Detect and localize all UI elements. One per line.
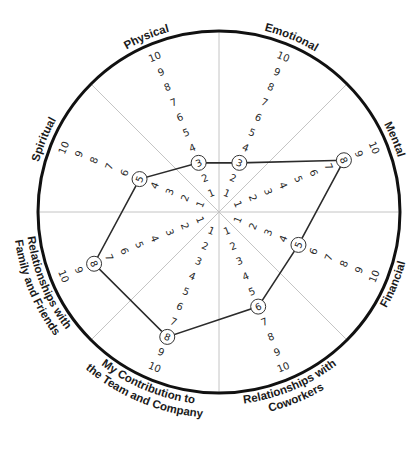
scale-number: 9: [272, 66, 282, 79]
scale-number: 7: [259, 96, 269, 109]
scale-number: 9: [353, 149, 366, 159]
scale-number: 1: [232, 199, 245, 209]
scale-number: 3: [164, 187, 177, 197]
scale-number: 7: [322, 252, 335, 262]
scale-number: 7: [168, 315, 178, 328]
spoke-line: [219, 84, 347, 212]
scale-number: 2: [179, 221, 192, 231]
scale-number: 9: [353, 265, 366, 275]
scale-number: 3: [164, 227, 177, 237]
scale-number: 2: [228, 240, 238, 253]
scale-number: 3: [234, 255, 244, 268]
scale-number: 3: [262, 227, 275, 237]
balance-wheel-chart: 1245678910123456791012346789101234578910…: [0, 0, 413, 449]
scale-number: 6: [175, 111, 185, 124]
spoke-line: [91, 84, 219, 212]
scale-number: 2: [179, 193, 192, 203]
scale-number: 4: [187, 141, 197, 154]
spoke-line: [91, 212, 219, 340]
scale-number: 6: [118, 246, 131, 256]
scale-number: 10: [275, 360, 291, 375]
scale-number: 7: [168, 96, 178, 109]
scale-number: 5: [247, 126, 257, 139]
scale-number: 5: [133, 240, 146, 250]
scale-number: 9: [73, 149, 86, 159]
scale-number: 5: [181, 285, 191, 298]
scale-number: 10: [275, 49, 291, 64]
category-label: Emotional: [264, 21, 321, 54]
scale-number: 6: [253, 111, 263, 124]
scale-number: 4: [277, 234, 290, 244]
scale-number: 1: [206, 225, 216, 238]
scale-number: 5: [181, 126, 191, 139]
scale-number: 1: [206, 187, 216, 200]
scale-number: 9: [73, 265, 86, 275]
scale-number: 2: [228, 172, 238, 185]
divider-spokes: [38, 31, 400, 393]
scale-number: 10: [367, 140, 382, 156]
scale-number: 6: [118, 168, 131, 178]
scale-number: 1: [232, 215, 245, 225]
scale-number: 9: [156, 346, 166, 359]
scale-number: 10: [147, 360, 163, 375]
scale-number: 1: [222, 187, 232, 200]
scale-number: 9: [272, 346, 282, 359]
scale-number: 2: [200, 240, 210, 253]
scale-number: 1: [222, 225, 232, 238]
scale-number: 10: [147, 49, 163, 64]
scale-number: 1: [194, 199, 207, 209]
scale-number: 8: [162, 81, 172, 94]
scale-number: 2: [200, 172, 210, 185]
scale-number: 2: [247, 193, 260, 203]
scale-number: 5: [247, 285, 257, 298]
scale-number: 3: [262, 187, 275, 197]
scale-number: 4: [148, 234, 161, 244]
scale-number: 10: [367, 268, 382, 284]
scale-number: 5: [292, 174, 305, 184]
spoke-line: [219, 212, 347, 340]
scale-number: 8: [338, 259, 351, 269]
scale-number: 7: [103, 252, 116, 262]
scale-number: 6: [307, 168, 320, 178]
scale-number: 7: [103, 161, 116, 171]
scale-number: 6: [307, 246, 320, 256]
scale-number: 7: [259, 315, 269, 328]
scale-number: 7: [322, 161, 335, 171]
scale-number: 8: [88, 155, 101, 165]
scale-number: 3: [194, 255, 204, 268]
scale-number: 10: [56, 268, 71, 284]
scale-number: 4: [241, 141, 251, 154]
scale-number: 8: [266, 81, 276, 94]
scale-number: 4: [241, 270, 251, 283]
scale-number: 9: [156, 66, 166, 79]
scale-number: 6: [175, 300, 185, 313]
scale-number: 4: [187, 270, 197, 283]
scale-number: 8: [266, 331, 276, 344]
scale-number: 10: [56, 140, 71, 156]
scale-number: 2: [247, 221, 260, 231]
scale-number: 1: [194, 215, 207, 225]
scale-number: 4: [148, 180, 161, 190]
scale-number: 4: [277, 180, 290, 190]
